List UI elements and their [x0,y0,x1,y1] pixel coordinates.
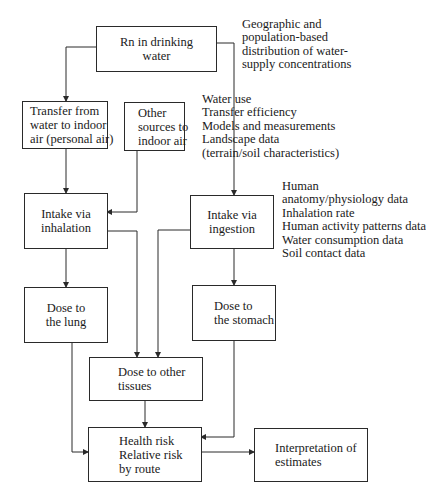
box-label: water [143,49,171,63]
box-rn-in-drinking-water: Rn in drinking water [96,26,217,72]
note-line: Transfer efficiency [202,106,339,119]
note-line: Models and measurements [202,120,339,133]
box-label: the stomach [214,313,274,327]
note-distribution-data: Geographic and population-based distribu… [242,18,351,72]
edge-rn-to-transfer [66,47,96,101]
note-line: Geographic and [242,18,351,31]
box-label: indoor air [138,134,187,148]
box-dose-stomach: Dose to the stomach [192,285,276,341]
box-label: Intake via [41,207,91,221]
box-label: sources to [138,120,188,134]
note-line: anatomy/physiology data [282,193,426,206]
box-label: Dose to other [118,365,185,379]
box-label: Health risk [119,434,174,448]
note-line: Water consumption data [282,234,426,247]
box-label: Rn in drinking [120,35,193,49]
box-label: by route [119,462,160,476]
box-label: ingestion [209,222,255,236]
box-intake-inhalation: Intake via inhalation [24,193,108,249]
note-line: supply concentrations [242,58,351,71]
note-line: Water use [202,93,339,106]
note-line: Human [282,180,426,193]
box-dose-lung: Dose to the lung [24,287,108,343]
note-line: population-based [242,31,351,44]
edge-lung-to-health [72,342,88,452]
box-label: estimates [275,455,322,469]
box-label: Other [138,106,166,120]
box-interpretation: Interpretation of estimates [254,428,368,482]
box-label: water to indoor [30,118,106,132]
box-label: air (personal air) [30,132,113,146]
edge-inhalation-to-other [107,231,137,357]
box-transfer-water-to-air: Transfer from water to indoor air (perso… [22,101,108,149]
box-label: Dose to [214,299,253,313]
box-health-risk: Health risk Relative risk by route [88,427,202,482]
note-line: distribution of water- [242,45,351,58]
box-label: Relative risk [119,448,183,462]
note-line: Inhalation rate [282,207,426,220]
box-intake-ingestion: Intake via ingestion [190,195,274,249]
box-label: Dose to [47,301,86,315]
box-label: tissues [118,379,151,393]
note-line: (terrain/soil characteristics) [202,147,339,160]
box-label: Transfer from [30,104,99,118]
note-line: Landscape data [202,133,339,146]
box-other-sources: Other sources to indoor air [124,102,185,151]
edge-stomach-to-health [201,341,234,437]
box-label: inhalation [41,221,91,235]
box-dose-other-tissues: Dose to other tissues [89,357,203,401]
box-label: Interpretation of [275,441,357,455]
edge-other-to-inhalation [107,151,137,212]
box-label: the lung [46,315,87,329]
note-line: Human activity patterns data [282,220,426,233]
note-line: Soil contact data [282,247,426,260]
box-label: Intake via [207,208,257,222]
note-exposure-inputs: Human anatomy/physiology data Inhalation… [282,180,426,260]
note-transfer-inputs: Water use Transfer efficiency Models and… [202,93,339,160]
edge-ingestion-to-other [158,230,190,357]
